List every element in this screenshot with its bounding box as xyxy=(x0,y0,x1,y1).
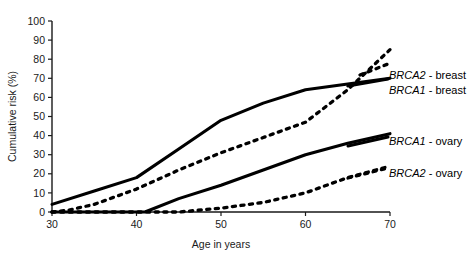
axis-lines xyxy=(52,21,390,212)
y-tick-label: 0 xyxy=(39,206,45,218)
legend-suffix-brca2-ovary: - ovary xyxy=(426,167,463,179)
legend-leader-brca2-breast xyxy=(360,64,388,75)
y-tick-label: 60 xyxy=(33,91,45,103)
y-tick-label: 80 xyxy=(33,53,45,65)
x-tick-label: 40 xyxy=(131,218,143,230)
x-tick-label: 30 xyxy=(46,218,58,230)
x-tick-label: 70 xyxy=(384,218,396,230)
legend-item-brca2-ovary: BRCA2 - ovary xyxy=(389,163,462,181)
y-tick-label: 40 xyxy=(33,129,45,141)
series-group xyxy=(52,50,390,212)
x-tick-label: 60 xyxy=(300,218,312,230)
legend-suffix-brca1-ovary: - ovary xyxy=(426,135,463,147)
y-axis-title: Cumulative risk (%) xyxy=(6,71,18,162)
y-tick-label: 90 xyxy=(33,34,45,46)
x-axis-title: Age in years xyxy=(192,238,250,250)
legend-item-brca1-breast: BRCA1 - breast xyxy=(389,80,466,98)
y-tick-label: 10 xyxy=(33,187,45,199)
y-tick-label: 70 xyxy=(33,72,45,84)
legend-label-brca1-ovary: BRCA1 - ovary xyxy=(389,135,462,147)
legend-suffix-brca1-breast: - breast xyxy=(426,84,466,96)
legend-gene-brca1-breast: BRCA1 xyxy=(389,84,426,96)
legend-item-brca1-ovary: BRCA1 - ovary xyxy=(389,131,462,149)
legend-label-brca2-ovary: BRCA2 - ovary xyxy=(389,167,462,179)
x-tick-label: 50 xyxy=(215,218,227,230)
legend-leader-brca2-ovary xyxy=(348,168,388,178)
y-tick-label: 30 xyxy=(33,148,45,160)
chart-canvas: 01020304050607080901003040506070Age in y… xyxy=(0,0,475,260)
cumulative-risk-chart: 01020304050607080901003040506070Age in y… xyxy=(0,0,475,260)
y-tick-label: 100 xyxy=(27,15,45,27)
y-tick-label: 50 xyxy=(33,110,45,122)
legend-label-brca1-breast: BRCA1 - breast xyxy=(389,84,466,96)
y-tick-label: 20 xyxy=(33,167,45,179)
legend-gene-brca2-ovary: BRCA2 xyxy=(389,167,426,179)
legend-gene-brca1-ovary: BRCA1 xyxy=(389,135,426,147)
